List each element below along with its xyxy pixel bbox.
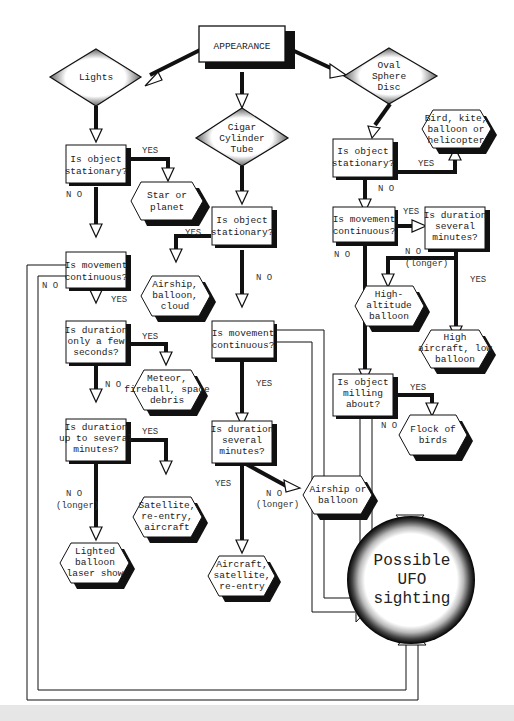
text-outcomes-high-aircraft-1: aircraft, low [418,343,492,354]
text-questions-lights-few-seconds-2: seconds? [73,347,119,358]
text-labels-yes: YES [142,146,158,156]
outcome-star-planet[interactable]: Star or planet [131,182,210,226]
text-questions-lights-stationary-1: stationary? [65,166,128,177]
text-questions-oval-continuous-0: Is movement [333,214,396,225]
text-outcomes-meteor-1: fireball, space [124,384,210,395]
text-questions-lights-continuous-1: continuous? [65,272,128,283]
text-outcomes-ufo-1: UFO [398,571,427,589]
appearance-box[interactable]: APPEARANCE [199,26,295,69]
appearance-label: APPEARANCE [213,41,270,52]
text-categories-cigar-2: Tube [231,144,254,155]
text-outcomes-airship-cloud-2: cloud [161,301,190,312]
outcome-flock[interactable]: Flock of birds [399,415,473,461]
text-questions-oval-milling-0: Is object [337,377,388,388]
text-questions-oval-milling-1: milling [343,388,383,399]
outcome-high-altitude[interactable]: High- altitude balloon [355,286,430,332]
text-questions-cigar-several-minutes-2: minutes? [219,446,265,457]
text-labels-longer: (longer) [56,501,99,511]
text-outcomes-high-alt-2: balloon [369,311,409,322]
ufo-identification-flowchart: APPEARANCE Lights Cigar Cylinder Tube Ov… [0,0,514,721]
text-questions-oval-several-minutes-0: Is duration [424,210,487,221]
text-outcomes-satellite-1: re-entry, [141,511,192,522]
text-outcomes-aircraft-sat-1: satellite, [213,570,270,581]
text-outcomes-bird-kite-1: balloon or [427,124,484,135]
diamond-lights[interactable]: Lights [50,49,141,106]
text-questions-oval-several-minutes-2: minutes? [432,232,478,243]
text-outcomes-meteor-2: debris [150,395,184,406]
text-questions-cigar-several-minutes-0: Is duration [211,424,274,435]
text-questions-lights-several-minutes-0: Is duration [65,422,128,433]
text-questions-oval-stationary-0: Is object [337,146,388,157]
text-labels-yes: YES [142,332,158,342]
text-labels-no: N O [105,380,121,390]
q-lights-several-minutes[interactable]: Is duration up to several minutes? [59,419,133,464]
q-lights-stationary[interactable]: Is object stationary? [65,145,131,186]
text-outcomes-star-planet-0: Star or [147,190,187,201]
text-outcomes-airship-balloon-1: balloon [318,495,358,506]
text-categories-oval-0: Oval [378,60,401,71]
text-categories-cigar-0: Cigar [228,122,257,133]
text-outcomes-lighted-balloon-2: laser show [66,568,123,579]
outcome-airship-cloud[interactable]: Airship, balloon, cloud [141,276,216,322]
outcome-lighted-balloon[interactable]: Lighted balloon laser show [60,543,135,589]
text-categories-oval-2: Disc [378,82,401,93]
text-outcomes-high-alt-0: High- [375,289,404,300]
outcome-aircraft-satellite[interactable]: Aircraft, satellite, re-entry [208,556,281,602]
diamond-oval[interactable]: Oval Sphere Disc [344,48,437,104]
text-labels-longer: (longer) [256,500,299,510]
diamond-cigar[interactable]: Cigar Cylinder Tube [196,108,288,166]
text-labels-yes: YES [185,228,201,238]
outcome-meteor[interactable]: Meteor, fireball, space debris [124,370,210,416]
text-outcomes-high-aircraft-2: balloon [435,354,475,365]
text-outcomes-airship-cloud-1: balloon, [152,290,198,301]
text-labels-no: N O [378,184,394,194]
outcome-satellite[interactable]: Satellite, re-entry, aircraft [133,497,208,543]
text-labels-yes: YES [215,479,231,489]
q-oval-stationary[interactable]: Is object stationary? [332,139,398,180]
outcome-bird-kite[interactable]: Bird, kite, balloon or helicopter [422,110,497,154]
q-oval-continuous[interactable]: Is movement continuous? [333,207,398,246]
outcome-airship-balloon[interactable]: Airship or balloon [303,476,378,520]
text-questions-cigar-continuous-0: Is movement [212,328,275,339]
text-labels-yes: YES [470,275,486,285]
text-labels-longer: (longer) [405,259,448,269]
text-outcomes-satellite-0: Satellite, [138,500,195,511]
text-labels-no: N O [381,421,397,431]
text-categories-lights: Lights [79,72,113,83]
text-outcomes-aircraft-sat-2: re-entry [219,581,265,592]
q-cigar-continuous[interactable]: Is movement continuous? [212,321,277,362]
ufo-sighting-terminal[interactable]: Possible UFO sighting [347,516,475,644]
text-categories-oval-1: Sphere [372,71,407,82]
text-outcomes-ufo-2: sighting [374,590,451,608]
text-questions-oval-continuous-1: continuous? [333,226,396,237]
text-outcomes-lighted-balloon-0: Lighted [75,546,115,557]
text-questions-lights-few-seconds-1: only a few [67,336,124,347]
q-lights-continuous[interactable]: Is movement continuous? [65,252,131,291]
text-labels-no: N O [334,250,350,260]
text-outcomes-high-alt-1: altitude [366,300,412,311]
text-labels-no: N O [405,247,421,257]
q-oval-several-minutes[interactable]: Is duration several minutes? [424,207,490,252]
text-questions-lights-several-minutes-1: up to several [59,433,133,444]
text-labels-no: N O [42,281,58,291]
text-questions-cigar-stationary-1: stationary? [211,227,274,238]
text-questions-cigar-continuous-1: continuous? [212,340,275,351]
text-categories-cigar-1: Cylinder [219,133,265,144]
text-outcomes-meteor-0: Meteor, [147,373,187,384]
text-labels-no: N O [66,190,82,200]
text-labels-yes: YES [410,383,426,393]
text-questions-cigar-stationary-0: Is object [216,215,267,226]
q-oval-milling[interactable]: Is object milling about? [333,374,398,419]
q-cigar-several-minutes[interactable]: Is duration several minutes? [211,421,277,466]
q-lights-few-seconds[interactable]: Is duration only a few seconds? [65,321,131,366]
text-questions-lights-continuous-0: Is movement [65,260,128,271]
text-outcomes-high-aircraft-0: High [444,332,467,343]
q-cigar-stationary[interactable]: Is object stationary? [211,207,277,248]
text-labels-no: N O [256,273,272,283]
text-questions-cigar-several-minutes-1: several [222,435,262,446]
text-outcomes-satellite-2: aircraft [144,522,190,533]
outcome-high-aircraft[interactable]: High aircraft, low balloon [418,330,496,374]
text-questions-lights-several-minutes-2: minutes? [73,444,119,455]
text-outcomes-star-planet-1: planet [150,202,184,213]
text-questions-oval-several-minutes-1: several [435,221,475,232]
